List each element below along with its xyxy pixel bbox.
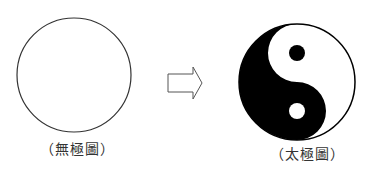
wuji-circle — [17, 18, 131, 132]
wuji-label: （無極圖） — [40, 138, 115, 158]
right-arrow-icon — [168, 67, 202, 99]
yin-dot — [289, 45, 305, 61]
taiji-symbol — [239, 24, 355, 140]
yang-dot — [289, 103, 305, 119]
taiji-label: （太極圖） — [270, 143, 345, 163]
